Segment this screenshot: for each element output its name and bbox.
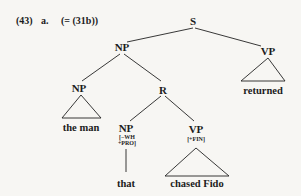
edge-r-vp (165, 96, 194, 121)
example-number: (43) (16, 15, 33, 27)
leaf-returned: returned (243, 85, 283, 96)
triangle-np-head (62, 95, 101, 118)
leaf-that: that (117, 178, 136, 189)
node-vp-main: VP (261, 45, 276, 57)
leaf-chased-fido: chased Fido (170, 178, 223, 189)
edge-r-np (130, 96, 161, 121)
edge-s-np (127, 28, 193, 42)
example-reference: (= (31b)) (61, 15, 98, 27)
node-np-rel: NP (119, 122, 134, 134)
syntax-tree-diagram: (43) a. (= (31b)) S NP VP NP R NP VP [−W… (0, 0, 301, 196)
node-vp-rel: VP (189, 123, 204, 135)
feature-fin: [+FIN] (187, 136, 205, 143)
node-np-subject: NP (115, 41, 130, 53)
leaf-the-man: the man (63, 122, 100, 133)
triangle-vp-main (241, 58, 285, 81)
edge-np-r (124, 54, 161, 81)
edge-np-np (82, 54, 120, 81)
node-s: S (190, 15, 196, 27)
np-rel-feature-matrix: [−WH +PRO] (118, 134, 136, 147)
node-r: R (159, 84, 168, 96)
triangle-vp-rel (165, 148, 229, 176)
edge-s-vp (195, 28, 261, 46)
example-sub: a. (41, 15, 49, 26)
node-np-head: NP (72, 82, 87, 94)
feature-pro: +PRO] (118, 140, 136, 147)
